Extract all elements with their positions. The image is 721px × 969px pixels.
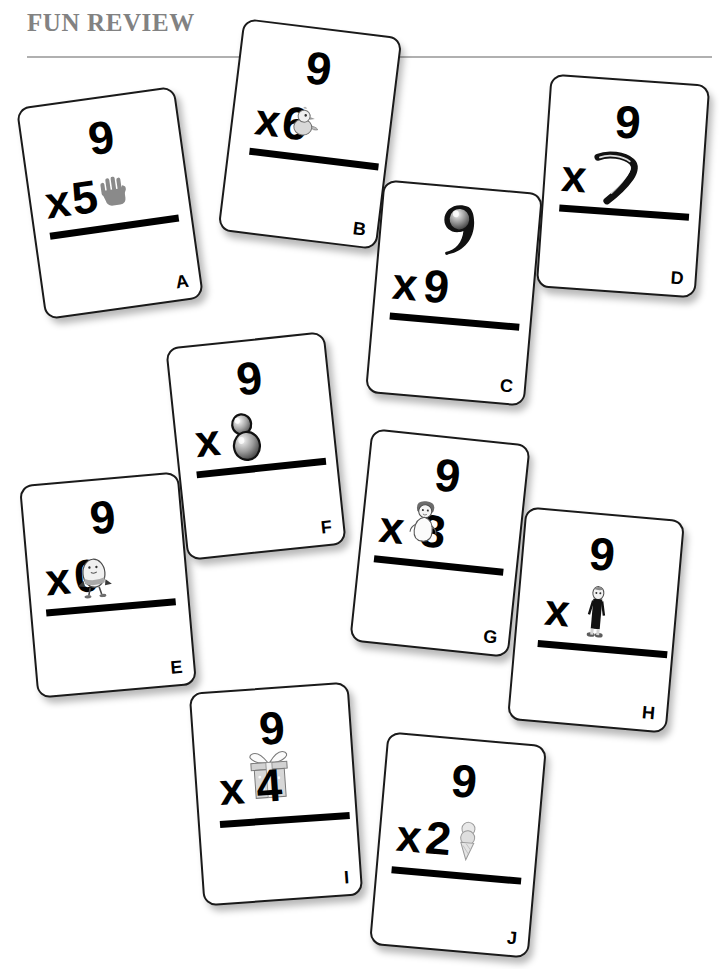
multiplication-sign: x (193, 416, 223, 463)
hand-icon (96, 175, 130, 213)
card-label: H (641, 702, 656, 724)
card-label: J (506, 928, 518, 950)
humpty-dumpty-icon (74, 553, 114, 600)
top-operand: 9 (548, 94, 707, 151)
doll-icon (404, 498, 443, 551)
bottom-operand: 2 (424, 814, 453, 862)
top-operand: 9 (367, 444, 527, 506)
boomerang-seven-icon (589, 149, 641, 208)
chick-icon (286, 103, 324, 141)
card-label: G (482, 626, 498, 648)
top-operand: 9 (522, 525, 681, 584)
multiplication-sign: x (560, 152, 588, 199)
balloon-nine-icon (431, 198, 488, 260)
bottom-row: x (542, 581, 678, 648)
page-title: FUN REVIEW (27, 9, 195, 37)
card-label: D (670, 268, 684, 290)
ice-cream-cone-icon (454, 819, 480, 863)
multiplication-sign: x (377, 503, 407, 550)
bottom-row: x (560, 147, 696, 212)
bottom-row: x 2 (394, 807, 530, 874)
top-operand: 9 (384, 752, 543, 811)
snowman-eight-icon (221, 407, 270, 465)
card-label: C (499, 375, 514, 397)
top-operand (379, 194, 539, 265)
multiplication-sign: x (543, 586, 572, 633)
multiplication-sign: x (391, 260, 420, 307)
card-label: I (343, 867, 349, 888)
standing-figure-icon (581, 584, 612, 642)
flashcard-g[interactable]: 9 x 3 (349, 428, 530, 658)
bottom-operand: 9 (422, 262, 451, 310)
card-label: E (170, 657, 184, 679)
flashcard-e[interactable]: 9 x 0 (19, 471, 197, 698)
flashcard-b[interactable]: 9 x 6 (218, 18, 403, 250)
card-label: F (320, 517, 333, 539)
card-label: A (174, 271, 190, 294)
bottom-operand: 5 (69, 173, 100, 222)
flashcard-d[interactable]: 9 x D (536, 74, 711, 299)
bottom-operand: 4 (255, 759, 283, 813)
flashcard-f[interactable]: 9 x (165, 331, 346, 561)
multiplication-sign: x (218, 765, 246, 812)
multiplication-sign: x (42, 177, 73, 225)
flashcard-a[interactable]: 9 x 5 (16, 86, 204, 320)
bottom-row: x (218, 752, 354, 817)
flashcard-c[interactable]: x 9 C (365, 179, 543, 406)
bottom-row: x 0 (43, 540, 179, 607)
multiplication-sign: x (43, 555, 72, 602)
card-label: B (352, 218, 367, 240)
worksheet-page: FUN REVIEW 9 x 5 (0, 0, 721, 969)
flashcard-j[interactable]: 9 x 2 J (369, 731, 547, 958)
top-operand: 9 (169, 347, 329, 409)
flashcard-h[interactable]: 9 x (507, 506, 685, 733)
top-operand: 9 (22, 488, 181, 547)
bottom-row: x 9 (390, 255, 526, 322)
flashcard-i[interactable]: 9 x (189, 682, 364, 907)
multiplication-sign: x (395, 812, 424, 859)
